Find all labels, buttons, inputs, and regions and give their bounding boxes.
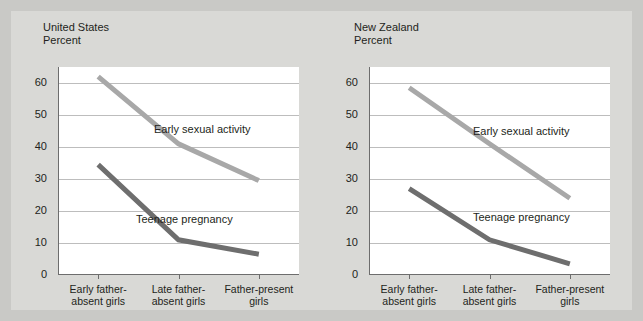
series-line-teenage-pregnancy: [409, 189, 570, 264]
chart-panel-united-states: United States Percent 0102030405060 Earl…: [11, 11, 321, 310]
series-label-early-sexual-activity-us: Early sexual activity: [154, 123, 251, 135]
y-axis-tick-label: 60: [318, 76, 358, 88]
x-axis-tick: [570, 275, 571, 279]
x-axis-tick: [490, 275, 491, 279]
y-axis-tick-label: 0: [7, 268, 47, 280]
y-axis-tick-label: 60: [7, 76, 47, 88]
panel-title-united-states: United States: [43, 21, 109, 34]
x-axis-category-label: Father-present girls: [516, 283, 624, 307]
series-label-teenage-pregnancy-us: Teenage pregnancy: [136, 213, 233, 225]
x-axis-tick: [409, 275, 410, 279]
y-axis-unit-label-united-states: Percent: [43, 34, 81, 47]
y-axis-tick-label: 40: [7, 140, 47, 152]
y-axis-tick-label: 0: [318, 268, 358, 280]
x-axis-category-label: Father-present girls: [205, 283, 313, 307]
y-axis-tick-label: 10: [318, 236, 358, 248]
y-axis-tick-label: 50: [318, 108, 358, 120]
y-axis-tick-label: 10: [7, 236, 47, 248]
y-axis-tick-label: 20: [318, 204, 358, 216]
series-label-teenage-pregnancy-nz: Teenage pregnancy: [473, 211, 570, 223]
panel-title-new-zealand: New Zealand: [354, 21, 419, 34]
y-axis-tick-label: 30: [318, 172, 358, 184]
y-axis-unit-label-new-zealand: Percent: [354, 34, 392, 47]
plot-inner-nz: 0102030405060 Early sexual activity Teen…: [369, 67, 610, 275]
x-axis-tick: [98, 275, 99, 279]
series-lines-nz: [369, 67, 610, 275]
chart-panel-new-zealand: New Zealand Percent 0102030405060 Early …: [322, 11, 632, 310]
series-line-early-sexual-activity: [409, 88, 570, 198]
series-line-teenage-pregnancy: [98, 165, 259, 255]
series-label-early-sexual-activity-nz: Early sexual activity: [473, 125, 570, 137]
series-lines-us: [58, 67, 299, 275]
plot-area-new-zealand: 0102030405060 Early sexual activity Teen…: [369, 67, 610, 275]
y-axis-tick-label: 40: [318, 140, 358, 152]
figure-container: United States Percent 0102030405060 Earl…: [11, 11, 632, 310]
y-axis-tick-label: 50: [7, 108, 47, 120]
y-axis-tick-label: 20: [7, 204, 47, 216]
x-axis-tick: [259, 275, 260, 279]
y-axis-tick-label: 30: [7, 172, 47, 184]
x-axis-tick: [179, 275, 180, 279]
plot-area-united-states: 0102030405060 Early sexual activity Teen…: [58, 67, 299, 275]
plot-inner-us: 0102030405060 Early sexual activity Teen…: [58, 67, 299, 275]
